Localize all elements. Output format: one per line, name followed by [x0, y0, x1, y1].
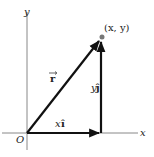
vector-diagram: y x O (x, y) r y ĵ x î [0, 0, 154, 157]
vector-r-label: r [50, 73, 56, 84]
point-marker [100, 35, 105, 40]
x-axis-label: x [140, 127, 146, 138]
point-label: (x, y) [104, 22, 130, 33]
origin-label: O [16, 134, 24, 145]
y-component-unit: ĵ [95, 82, 100, 93]
y-axis-label: y [23, 6, 30, 17]
x-component-unit: î [61, 118, 65, 129]
